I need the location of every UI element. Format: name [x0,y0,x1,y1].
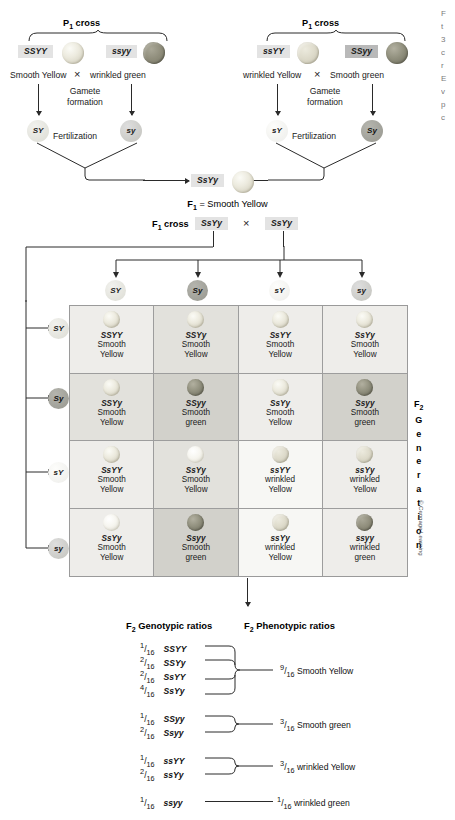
ratio-group-2: 1/16 SSyy 2/16 Ssyy [140,711,185,739]
punnett-cell-trait-color: green [185,553,206,563]
frac-num: 1 [277,795,281,804]
ratio-group-1: 1/16 SSYY 2/16 SSYy 2/16 SsYY 4/16 SsYy [140,641,186,697]
punnett-cell-trait-color: Yellow [353,350,376,360]
frac-den: 16 [147,802,155,811]
ratio-row: 1/16 SSYY [140,641,186,655]
seed-wrinkled-yellow [272,514,289,531]
punnett-cell-genotype: SsYY [270,331,291,340]
seed-smooth-green [356,379,373,396]
gamete-label: Sy [193,287,203,295]
punnett-cell-trait-color: Yellow [184,485,207,495]
phenotype-text: Smooth green [297,720,351,730]
caption-line: c [441,112,455,125]
gamete-sy-left: sy [120,120,142,142]
p1-left-heading-rest: cross [73,18,100,28]
punnett-cell-trait-shape: Smooth [98,340,126,350]
punnett-cell: SsyySmoothgreen [323,374,407,442]
p1-right-parent-b-phenotype: Smooth green [330,70,384,80]
ratio-genotype: SSYy [164,658,186,668]
punnett-cell-trait-shape: Smooth [98,543,126,553]
p1-right-arrow-b [372,84,373,115]
punnett-cell: SSYySmoothYellow [70,374,154,442]
seed-wrinkled-yellow [272,446,289,463]
f1-cross-symbol: × [243,217,249,229]
frac-num: 1 [140,711,144,720]
punnett-cell-genotype: Ssyy [186,534,205,543]
gamete-formation-line1: Gamete [48,86,122,97]
ratio-genotype: SsYy [164,686,185,696]
f1-cross-label: F1 cross [152,219,189,231]
gamete-label: sY [54,469,64,477]
ratio-bracket-1 [205,641,280,699]
punnett-cell-trait-shape: Smooth [98,475,126,485]
ratio-row: 1/16 ssYY [140,753,185,767]
seed-smooth-yellow [272,379,289,396]
seed-wrinkled-green [143,42,165,64]
p1-right-gamete-formation-label: Gamete formation [288,86,362,107]
gamete-label: Sy [367,127,377,135]
punnett-cell-trait-shape: Smooth [182,408,210,418]
p1-right-brace [265,30,407,42]
punnett-cell: SsYySmoothYellow [323,306,407,374]
p1-left-arrow-b [131,84,132,115]
caption-line: t [441,21,455,34]
punnett-cell-trait-shape: Smooth [351,408,379,418]
phenotypic-ratios-heading: F2 Phenotypic ratios [244,620,335,633]
punnett-cell-trait-color: green [185,418,206,428]
p1-left-cross-symbol: × [74,68,80,80]
p1-left-converge-lines [27,140,147,182]
p1-right-parent-a-phenotype: wrinkled Yellow [243,70,301,80]
gamete-label: sy [127,127,136,135]
ratio-bracket-2 [205,711,280,737]
ratio-row: 2/16 Ssyy [140,725,185,739]
punnett-cell-trait-shape: wrinkled [350,543,380,553]
genotypic-ratios-heading: F2 Genotypic ratios [126,620,212,633]
p1-left-parent-a-phenotype: Smooth Yellow [10,70,66,80]
ratio-group-4: 1/16 ssyy [140,795,183,809]
gamete-label: sy [54,545,63,553]
caption-line: v [441,86,455,99]
f1-cross-text: cross [162,219,189,229]
punnett-cell-trait-shape: wrinkled [350,475,380,485]
seed-wrinkled-green [356,514,373,531]
phenotype-result-2: 3/16 Smooth green [280,717,351,733]
f2-gen-letter: n [416,442,422,456]
frac-num: 1 [140,753,144,762]
punnett-square: SSYYSmoothYellowSSYySmoothYellowSsYYSmoo… [69,305,408,577]
punnett-cell-genotype: SsYy [102,534,122,543]
punnett-cell-genotype: SsYY [101,466,122,475]
gamete-sY-right: sY [266,120,288,142]
ratio-genotype: SSyy [164,714,185,724]
frac-den: 16 [147,774,155,783]
f2-gen-letter: r [417,469,421,483]
gamete-formation-line2: formation [48,97,122,108]
gamete-row-Sy: Sy [48,388,69,409]
p1-cross-right-heading: P1 cross [302,18,339,30]
punnett-cell-trait-color: green [354,418,375,428]
punnett-cell-trait-shape: Smooth [266,340,294,350]
punnett-cell: SsYySmoothYellow [239,374,323,442]
frac-den: 16 [287,766,295,775]
genotype-chip: SSYY [18,45,53,58]
genotype-chip: SsYy [191,174,224,187]
punnett-cell-genotype: SSYy [101,399,122,408]
punnett-cell: SSYYSmoothYellow [70,306,154,374]
ratio-bracket-3 [205,753,280,779]
ratio-genotype: ssyy [164,798,183,808]
phenotype-result-1: 9/16 Smooth Yellow [280,663,353,679]
phenotype-text: wrinkled green [294,798,350,808]
gamete-SY-left: SY [27,120,49,142]
punnett-cell: ssYywrinkledYellow [239,509,323,577]
seed-smooth-yellow [103,379,120,396]
seed-wrinkled-yellow [356,446,373,463]
punnett-cell-genotype: SSYY [101,331,123,340]
f1-genotype-chip: SsYy [191,174,224,187]
genotype-chip: SsYy [195,217,228,230]
seed-smooth-yellow [103,446,120,463]
frac-den: 16 [284,802,292,811]
frac-den: 16 [147,690,155,699]
ratio-genotype: ssYy [164,770,184,780]
punnett-cell-genotype: ssYY [270,466,290,475]
p1-left-parent-b-phenotype: wrinkled green [90,70,146,80]
genotype-chip: ssyy [106,45,137,58]
